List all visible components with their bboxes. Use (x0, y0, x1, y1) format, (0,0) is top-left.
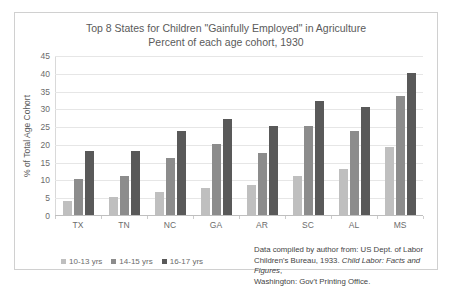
legend-item[interactable]: 16-17 yrs (162, 257, 203, 266)
chart-container: Top 8 States for Children "Gainfully Emp… (14, 12, 438, 270)
y-axis-tick-label: 35 (41, 87, 50, 97)
bar (258, 153, 267, 215)
bar (109, 197, 118, 215)
bar (269, 126, 278, 215)
legend-label: 16-17 yrs (170, 257, 203, 266)
bar (120, 176, 129, 215)
source-note-line-2: Children's Bureau, 1933. Child Labor: Fa… (254, 256, 444, 277)
plot-area: 454035302520151050 TXTNNCGAARSCALMS (55, 56, 423, 216)
bar (85, 151, 94, 215)
y-axis-tick-label: 0 (45, 211, 50, 221)
bar (223, 119, 232, 215)
bar (293, 176, 302, 215)
legend-item[interactable]: 10-13 yrs (61, 257, 102, 266)
x-axis-tick-label: MS (377, 220, 423, 230)
bar (201, 188, 210, 215)
bar-group: MS (377, 55, 423, 215)
bar-group: TX (55, 55, 101, 215)
x-axis-tick-label: TN (101, 220, 147, 230)
source-note-line-3: Washington: Gov't Printing Office. (254, 277, 444, 288)
y-axis-tick-label: 20 (41, 140, 50, 150)
x-axis-tick-label: TX (55, 220, 101, 230)
chart-legend: 10-13 yrs14-15 yrs16-17 yrs (61, 257, 203, 266)
bar-group: AL (331, 55, 377, 215)
x-axis-tickmark (101, 216, 102, 219)
y-axis-tick-label: 15 (41, 158, 50, 168)
x-axis-tick-label: NC (147, 220, 193, 230)
x-axis-tickmark (285, 216, 286, 219)
x-axis-tickmark (423, 216, 424, 219)
bar (247, 185, 256, 215)
bar (166, 158, 175, 215)
chart-title-main: Top 8 States for Children "Gainfully Emp… (15, 21, 437, 35)
legend-item[interactable]: 14-15 yrs (111, 257, 152, 266)
y-axis-tick-label: 40 (41, 69, 50, 79)
x-axis-tick-label: GA (193, 220, 239, 230)
legend-swatch-icon (111, 259, 116, 264)
x-axis-tick-label: SC (285, 220, 331, 230)
bar (350, 131, 359, 215)
source-note-comma: , (280, 266, 282, 275)
bar-group: AR (239, 55, 285, 215)
source-note-publisher: Children's Bureau, 1933. (254, 256, 342, 265)
x-axis-tickmark (377, 216, 378, 219)
bar (304, 126, 313, 215)
x-axis-tick-label: AL (331, 220, 377, 230)
bar (177, 131, 186, 215)
x-axis-tick-label: AR (239, 220, 285, 230)
bar (131, 151, 140, 215)
y-axis-tick-label: 5 (45, 193, 50, 203)
bar (339, 169, 348, 215)
bar (385, 147, 394, 215)
legend-label: 10-13 yrs (69, 257, 102, 266)
y-axis-tick-label: 25 (41, 122, 50, 132)
y-axis-tick-label: 45 (41, 51, 50, 61)
bar (396, 96, 405, 215)
bar-group: SC (285, 55, 331, 215)
x-axis-tickmark (147, 216, 148, 219)
bar (155, 192, 164, 215)
source-note-line-1: Data compiled by author from: US Dept. o… (254, 245, 444, 256)
legend-swatch-icon (162, 259, 167, 264)
bar (407, 73, 416, 215)
y-axis-label: % of Total Age Cohort (21, 56, 33, 216)
x-axis-tickmark (239, 216, 240, 219)
bar (361, 107, 370, 215)
x-axis-tickmark (55, 216, 56, 219)
bar-group: TN (101, 55, 147, 215)
bar (212, 144, 221, 215)
y-axis-tick-label: 10 (41, 175, 50, 185)
bar (74, 179, 83, 215)
legend-label: 14-15 yrs (119, 257, 152, 266)
bar (63, 201, 72, 215)
bar (315, 101, 324, 215)
y-axis-tick-label: 30 (41, 104, 50, 114)
chart-subtitle: Percent of each age cohort, 1930 (15, 35, 437, 49)
bar-group: NC (147, 55, 193, 215)
legend-swatch-icon (61, 259, 66, 264)
chart-title: Top 8 States for Children "Gainfully Emp… (15, 21, 437, 49)
bar-group: GA (193, 55, 239, 215)
x-axis-tickmark (193, 216, 194, 219)
source-note: Data compiled by author from: US Dept. o… (254, 245, 444, 287)
x-axis-tickmark (331, 216, 332, 219)
